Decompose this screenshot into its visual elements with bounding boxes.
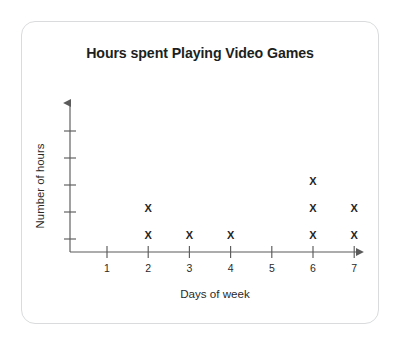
- x-axis-tick-label: 1: [104, 262, 110, 274]
- x-axis-tick-label: 2: [145, 262, 151, 274]
- x-axis-tick-label: 3: [186, 262, 192, 274]
- data-marker: X: [227, 229, 235, 241]
- data-marker: X: [309, 202, 317, 214]
- x-axis-tick-label: 6: [310, 262, 316, 274]
- data-marker: X: [351, 229, 359, 241]
- x-axis-ticks: 1234567: [104, 246, 357, 274]
- data-marker: X: [145, 229, 153, 241]
- data-marker: X: [145, 202, 153, 214]
- data-markers: XXXXXXXXX: [145, 175, 359, 241]
- screenshot-root: Hours spent Playing Video Games Number o…: [0, 0, 400, 347]
- dot-plot: 1234567 XXXXXXXXX: [0, 0, 400, 347]
- x-axis-tick-label: 5: [269, 262, 275, 274]
- data-marker: X: [309, 175, 317, 187]
- x-axis-tick-label: 7: [351, 262, 357, 274]
- data-marker: X: [186, 229, 194, 241]
- data-marker: X: [351, 202, 359, 214]
- x-axis-tick-label: 4: [228, 262, 234, 274]
- data-marker: X: [309, 229, 317, 241]
